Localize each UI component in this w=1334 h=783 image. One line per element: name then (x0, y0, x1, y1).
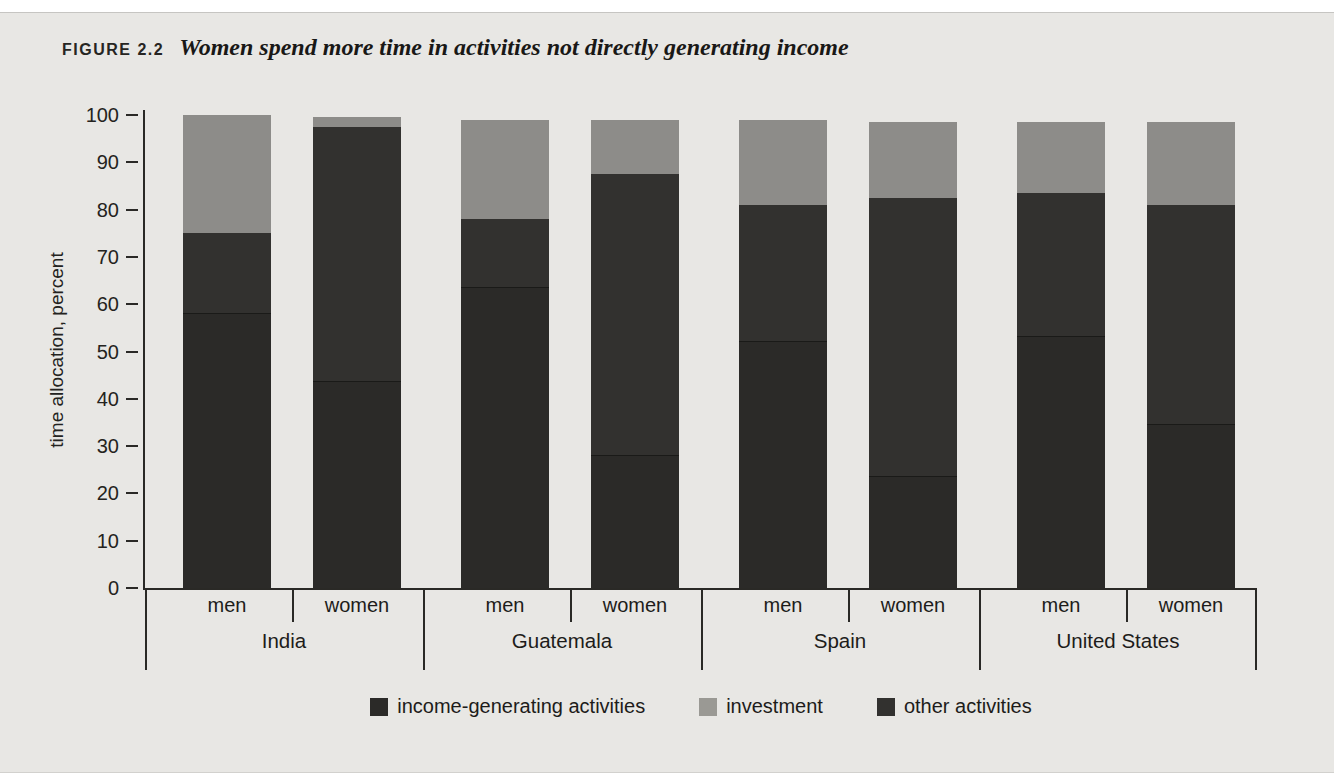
bar-segment-other-activities (739, 205, 827, 342)
y-tick-label-80: 80 (67, 198, 119, 222)
legend-item-income-generating-activities: income-generating activities (370, 695, 645, 718)
bar-segment-other-activities (313, 127, 401, 382)
bar-segment-income-generating-activities (1147, 425, 1235, 588)
country-label-spain: Spain (701, 629, 979, 657)
y-tick-label-50: 50 (67, 340, 119, 364)
y-tick-label-20: 20 (67, 481, 119, 505)
y-tick-50 (126, 351, 138, 353)
legend-label-income-generating-activities: income-generating activities (397, 695, 645, 718)
bar-segment-other-activities (1017, 193, 1105, 337)
bar-segment-investment (313, 117, 401, 126)
country-label-india: India (145, 629, 423, 657)
y-tick-10 (126, 540, 138, 542)
y-tick-100 (126, 114, 138, 116)
chart-legend: income-generating activitiesinvestmentot… (145, 695, 1257, 718)
y-tick-70 (126, 256, 138, 258)
y-tick-90 (126, 161, 138, 163)
y-tick-60 (126, 303, 138, 305)
bar-segment-other-activities (869, 198, 957, 477)
bar-india-men (183, 115, 271, 588)
figure-heading: FIGURE 2.2 Women spend more time in acti… (62, 34, 849, 61)
country-label-guatemala: Guatemala (423, 629, 701, 657)
bar-guatemala-men (461, 115, 549, 588)
country-label-united-states: United States (979, 629, 1257, 657)
y-tick-80 (126, 209, 138, 211)
legend-label-investment: investment (726, 695, 823, 718)
men-women-divider-united-states (1126, 588, 1128, 622)
bar-segment-investment (1017, 122, 1105, 193)
bar-segment-other-activities (591, 174, 679, 455)
bar-segment-income-generating-activities (461, 288, 549, 588)
x-label-women-guatemala: women (581, 594, 689, 620)
bar-segment-other-activities (183, 233, 271, 313)
x-label-women-india: women (303, 594, 411, 620)
y-tick-label-40: 40 (67, 387, 119, 411)
x-label-men-spain: men (729, 594, 837, 620)
bar-india-women (313, 115, 401, 588)
y-tick-label-0: 0 (67, 576, 119, 600)
men-women-divider-guatemala (570, 588, 572, 622)
bar-segment-other-activities (1147, 205, 1235, 425)
scanned-book-page: FIGURE 2.2 Women spend more time in acti… (0, 0, 1334, 783)
y-tick-label-90: 90 (67, 150, 119, 174)
stacked-bar-chart: 0102030405060708090100menwomenmenwomenme… (145, 115, 1257, 588)
bar-segment-investment (183, 115, 271, 233)
x-label-men-united-states: men (1007, 594, 1115, 620)
bar-segment-income-generating-activities (739, 342, 827, 588)
bar-segment-income-generating-activities (869, 477, 957, 588)
y-tick-30 (126, 445, 138, 447)
bar-segment-investment (1147, 122, 1235, 205)
y-tick-label-70: 70 (67, 245, 119, 269)
men-women-divider-spain (848, 588, 850, 622)
y-tick-label-100: 100 (67, 103, 119, 127)
bar-segment-income-generating-activities (313, 382, 401, 588)
bar-segment-other-activities (461, 219, 549, 288)
bar-segment-investment (869, 122, 957, 198)
bar-united-states-men (1017, 115, 1105, 588)
y-tick-label-60: 60 (67, 292, 119, 316)
men-women-divider-india (292, 588, 294, 622)
bar-guatemala-women (591, 115, 679, 588)
y-tick-20 (126, 492, 138, 494)
bar-united-states-women (1147, 115, 1235, 588)
y-tick-40 (126, 398, 138, 400)
figure-title: Women spend more time in activities not … (179, 34, 849, 61)
y-axis-line (143, 110, 145, 590)
legend-label-other-activities: other activities (904, 695, 1032, 718)
y-axis-title: time allocation, percent (46, 252, 68, 447)
x-label-women-spain: women (859, 594, 967, 620)
bar-segment-income-generating-activities (183, 314, 271, 588)
figure-number: FIGURE 2.2 (62, 41, 164, 59)
bar-segment-investment (591, 120, 679, 174)
y-tick-0 (126, 587, 138, 589)
bar-segment-investment (739, 120, 827, 205)
x-axis-baseline (143, 588, 1257, 590)
legend-item-other-activities: other activities (877, 695, 1032, 718)
bar-spain-men (739, 115, 827, 588)
y-tick-label-30: 30 (67, 434, 119, 458)
x-label-men-guatemala: men (451, 594, 559, 620)
legend-swatch-income-generating-activities (370, 698, 388, 716)
bar-spain-women (869, 115, 957, 588)
bar-segment-income-generating-activities (591, 456, 679, 588)
legend-swatch-other-activities (877, 698, 895, 716)
bar-segment-income-generating-activities (1017, 337, 1105, 588)
legend-item-investment: investment (699, 695, 823, 718)
legend-swatch-investment (699, 698, 717, 716)
x-label-women-united-states: women (1137, 594, 1245, 620)
x-label-men-india: men (173, 594, 281, 620)
bar-segment-investment (461, 120, 549, 219)
y-tick-label-10: 10 (67, 529, 119, 553)
